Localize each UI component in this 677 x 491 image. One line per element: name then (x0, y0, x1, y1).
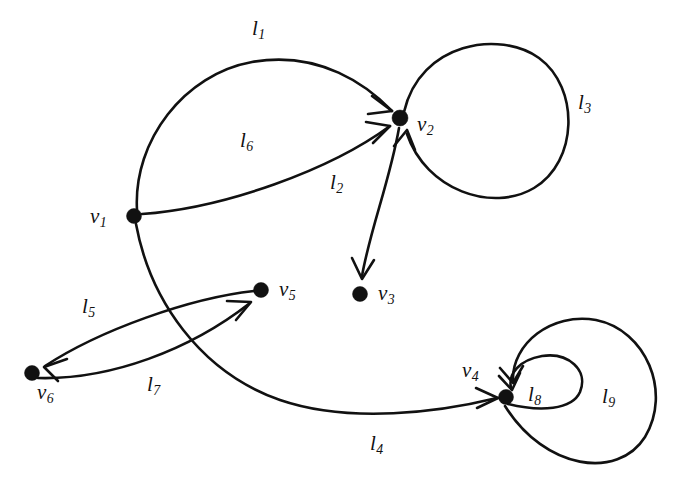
edge-label-l6: l6 (240, 130, 253, 154)
vertex-label-v4: v4 (462, 360, 479, 384)
edge-label-l5: l5 (82, 296, 95, 320)
vertex-label-v5: v5 (279, 279, 296, 303)
edge-label-l2: l2 (330, 172, 343, 196)
edge-l5-path (45, 291, 254, 366)
edge-label-l3: l3 (578, 92, 591, 116)
vertex-label-v2: v2 (417, 114, 434, 138)
vertex-v6-dot (25, 366, 40, 381)
edge-l6 (142, 122, 390, 214)
edge-l9 (500, 319, 656, 463)
edge-label-l1: l1 (252, 18, 265, 42)
vertex-v2-dot (392, 110, 408, 126)
edge-l4 (136, 224, 498, 414)
vertex-label-v1: v1 (90, 206, 107, 230)
vertex-v3-dot (353, 287, 368, 302)
graph-diagram: v1 v2 v3 v4 v5 v6 l1 l2 l3 l4 l5 l6 l7 l… (0, 0, 677, 491)
edge-label-l4: l4 (370, 433, 383, 457)
vertex-v5-dot (254, 283, 269, 298)
graph-canvas (0, 0, 677, 491)
vertex-v1-dot (127, 209, 142, 224)
edge-l6-path (142, 126, 390, 214)
edge-l4-path (136, 224, 497, 414)
edge-l2-path (362, 128, 399, 276)
edge-l2 (352, 128, 399, 279)
edge-l8-path (508, 355, 582, 408)
vertex-label-v6: v6 (37, 382, 54, 406)
vertex-v4-dot (499, 390, 514, 405)
edge-label-l7: l7 (147, 374, 160, 398)
vertex-label-v3: v3 (378, 283, 395, 307)
edge-label-l9: l9 (602, 386, 615, 410)
edge-label-l8: l8 (528, 384, 541, 408)
